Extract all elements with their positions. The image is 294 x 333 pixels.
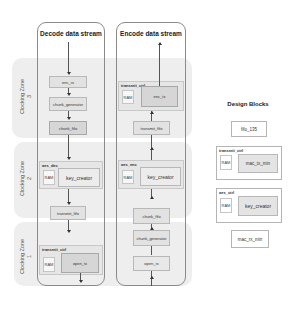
encode-key-creator-block: key_creator xyxy=(140,167,181,186)
encode-open-rx-block: open_rx xyxy=(133,256,170,271)
arrow-down-icon xyxy=(67,72,71,75)
encode-stream-title: Encode data stream xyxy=(116,30,186,37)
decode-transmit-fifo-block: transmit_fifo xyxy=(50,206,86,220)
arrow-up-icon xyxy=(150,276,154,279)
decode-transmit-ctrl-label: transmit_ctrl xyxy=(42,247,66,252)
arrow-up-icon xyxy=(150,147,154,150)
legend-transmit-ctrl-label: transmit_ctrl xyxy=(219,148,243,153)
encode-transmit-fifo-block: transmit_fifo xyxy=(133,121,170,135)
arrow-down-icon xyxy=(67,157,71,160)
arrow-down-icon xyxy=(67,230,71,233)
legend-aes-ctrl-ram: RAM xyxy=(220,198,232,213)
design-blocks-title: Design Blocks xyxy=(215,101,281,107)
encode-output-arrow-line xyxy=(159,45,160,86)
decode-arrow-line xyxy=(68,220,69,230)
legend-mac-rx-min-block: mac_rx_min xyxy=(231,230,269,248)
decode-chunk-fifo-block: chunk_fifo xyxy=(49,121,87,135)
arrow-up-icon xyxy=(150,196,154,199)
encode-transmit-ctrl-ram: RAM xyxy=(122,90,134,104)
arrow-down-icon xyxy=(79,280,83,283)
clocking-zone-3-label: Clocking Zone 3 xyxy=(19,79,32,115)
arrow-down-icon xyxy=(67,117,71,120)
legend-key-creator-block: key_creator xyxy=(238,196,278,216)
clocking-zone-2-label: Clocking Zone 2 xyxy=(19,161,32,197)
decode-aes-dec-label: aes_dec xyxy=(42,163,58,168)
arrow-up-icon xyxy=(158,42,162,45)
arrow-down-icon xyxy=(67,93,71,96)
legend-aes-ctrl-label: aes_ctrl xyxy=(219,190,234,195)
decode-chunk-generator-block: chunk_generator xyxy=(49,97,87,111)
decode-aes-dec-ram: RAM xyxy=(43,170,55,185)
decode-enc-rx-block: enc_rx xyxy=(49,76,87,88)
arrow-down-icon xyxy=(67,202,71,205)
encode-chunk-generator-block: chunk_generator xyxy=(133,230,170,246)
encode-arrow-line xyxy=(151,246,152,255)
clocking-zone-1-label: Clocking Zone 1 xyxy=(19,239,32,275)
arrow-up-icon xyxy=(150,111,154,114)
legend-fifo-block: fifo_135 xyxy=(231,121,267,137)
encode-aes-enc-label: aes_enc xyxy=(121,162,137,167)
decode-arrow-line xyxy=(68,189,69,202)
decode-key-creator-block: key_creator xyxy=(58,168,100,187)
legend-transmit-ctrl-ram: RAM xyxy=(220,155,232,170)
decode-open-tx-block: open_tx xyxy=(61,253,99,273)
legend-mac-tx-min-block: mac_tx_min xyxy=(238,154,278,173)
decode-arrow-line xyxy=(68,42,69,72)
decode-arrow-line xyxy=(68,135,69,157)
decode-stream-title: Decode data stream xyxy=(37,30,105,37)
decode-transmit-ctrl-ram: RAM xyxy=(43,257,55,272)
encode-chunk-fifo-block: chunk_fifo xyxy=(133,208,170,224)
encode-aes-enc-ram: RAM xyxy=(122,170,134,184)
encode-enc-tx-block: enc_tx xyxy=(141,86,178,107)
